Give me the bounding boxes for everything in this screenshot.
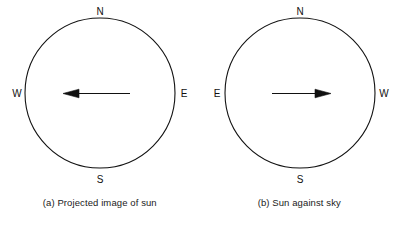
cardinal-north-b: N: [296, 6, 303, 17]
compass-figure-row: N S W E (a) Projected image of sun N S E…: [0, 0, 399, 226]
compass-diagram-a: N S W E: [0, 0, 200, 190]
figure-panel-b: N S E W (b) Sun against sky: [200, 0, 399, 226]
cardinal-right-b: W: [379, 88, 389, 99]
cardinal-left-a: W: [12, 88, 22, 99]
figure-panel-a: N S W E (a) Projected image of sun: [0, 0, 200, 226]
cardinal-south-a: S: [97, 174, 104, 185]
cardinal-left-b: E: [213, 88, 220, 99]
arrow-head-a: [63, 89, 79, 98]
cardinal-south-b: S: [296, 174, 303, 185]
compass-diagram-b: N S E W: [200, 0, 399, 190]
cardinal-north-a: N: [96, 6, 103, 17]
compass-svg-a: N S W E: [0, 0, 200, 190]
arrow-head-b: [315, 89, 331, 98]
figure-caption-b: (b) Sun against sky: [200, 196, 399, 209]
figure-caption-a: (a) Projected image of sun: [0, 196, 200, 209]
compass-svg-b: N S E W: [200, 0, 399, 190]
cardinal-right-a: E: [181, 88, 188, 99]
